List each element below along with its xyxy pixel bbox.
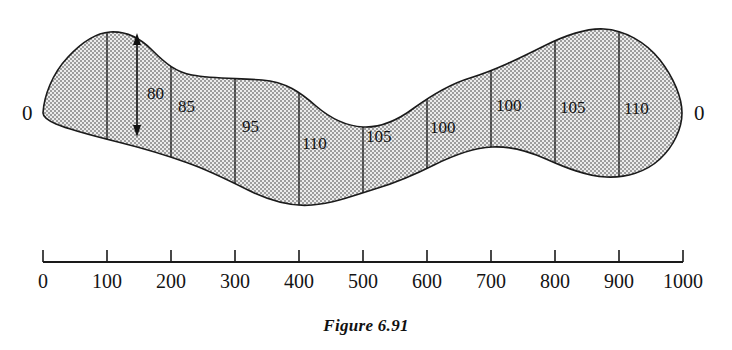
segment-label: 95 bbox=[242, 117, 259, 136]
axis-tick-label: 300 bbox=[220, 270, 250, 292]
axis-tick-label: 100 bbox=[92, 270, 122, 292]
segment-label: 100 bbox=[496, 96, 522, 115]
axis-tick-label: 500 bbox=[348, 270, 378, 292]
figure-caption: Figure 6.91 bbox=[0, 316, 732, 336]
axis-tick-label: 400 bbox=[284, 270, 314, 292]
axis-tick-label: 800 bbox=[540, 270, 570, 292]
segment-label: 110 bbox=[302, 134, 327, 153]
left-endpoint-label: 0 bbox=[22, 101, 33, 125]
figure-drawing: 0 0 80 85 95 110 105 100 100 105 110 bbox=[0, 0, 732, 350]
axis-tick-label: 900 bbox=[604, 270, 634, 292]
figure-container: 0 0 80 85 95 110 105 100 100 105 110 bbox=[0, 0, 732, 350]
scale-axis: 0 100 200 300 400 500 600 700 800 900 10… bbox=[38, 250, 703, 292]
segment-label: 105 bbox=[366, 127, 392, 146]
axis-tick-label: 1000 bbox=[663, 270, 703, 292]
segment-label: 85 bbox=[178, 97, 195, 116]
right-endpoint-label: 0 bbox=[694, 101, 705, 125]
segment-label: 105 bbox=[560, 98, 586, 117]
axis-tick-label: 700 bbox=[476, 270, 506, 292]
axis-ticks bbox=[43, 250, 683, 262]
segment-label: 110 bbox=[624, 99, 649, 118]
axis-tick-label: 0 bbox=[38, 270, 48, 292]
axis-tick-label: 600 bbox=[412, 270, 442, 292]
axis-tick-label: 200 bbox=[156, 270, 186, 292]
segment-label: 80 bbox=[147, 84, 164, 103]
axis-tick-labels: 0 100 200 300 400 500 600 700 800 900 10… bbox=[38, 270, 703, 292]
segment-label: 100 bbox=[430, 118, 456, 137]
